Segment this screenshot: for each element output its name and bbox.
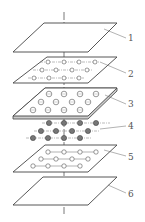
layer-4 — [26, 120, 126, 140]
label-3: 3 — [128, 100, 134, 109]
layer-2 — [13, 57, 126, 83]
label-1: 1 — [128, 34, 134, 43]
label-2: 2 — [128, 70, 134, 79]
label-6: 6 — [128, 190, 134, 199]
layer-3 — [13, 88, 126, 119]
layer-1 — [13, 23, 126, 52]
label-4: 4 — [128, 122, 134, 131]
exploded-diagram — [0, 0, 145, 222]
layer-5 — [13, 145, 126, 172]
label-5: 5 — [128, 153, 134, 162]
layer-6 — [13, 177, 126, 205]
